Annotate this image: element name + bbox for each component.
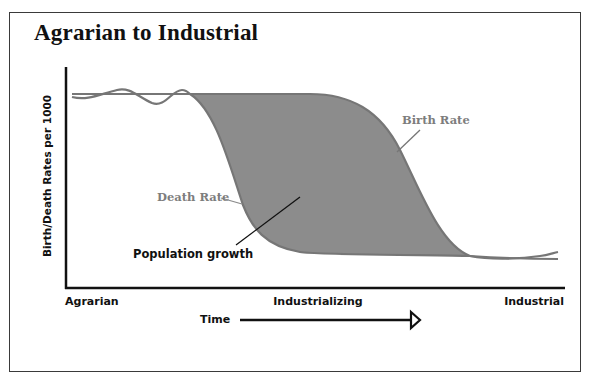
birth-rate-leader — [397, 130, 420, 152]
transition-plot — [0, 0, 596, 389]
x-label-industrial: Industrial — [504, 295, 564, 308]
x-label-agrarian: Agrarian — [65, 295, 119, 308]
time-label: Time — [200, 313, 230, 326]
x-label-industrializing: Industrializing — [273, 295, 362, 308]
time-arrow-head-icon — [411, 312, 420, 328]
birth-rate-label: Birth Rate — [402, 113, 470, 127]
death-rate-label: Death Rate — [157, 190, 229, 204]
y-axis-label: Birth/Death Rates per 1000 — [41, 95, 53, 257]
population-growth-label: Population growth — [133, 247, 253, 261]
